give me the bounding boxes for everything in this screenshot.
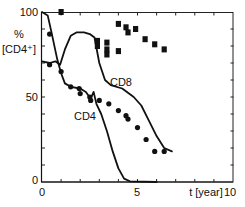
x-tick-label-5: 5 — [134, 186, 140, 198]
data-point-dot — [106, 101, 111, 106]
data-point-dot — [68, 84, 73, 89]
x-axis-label: t [year] — [189, 186, 223, 198]
y-tick-label-100: 100 — [20, 6, 38, 18]
data-point-square — [152, 41, 157, 47]
data-point-square — [125, 29, 130, 35]
data-point-square — [143, 36, 148, 42]
data-point-dot — [88, 98, 93, 103]
data-point-square — [59, 9, 64, 15]
data-point-square — [95, 43, 100, 49]
data-point-dot — [144, 137, 149, 142]
data-point-square — [116, 21, 121, 27]
data-point-dot — [77, 86, 82, 91]
data-point-dot — [97, 98, 102, 103]
cd4-model-curve — [42, 12, 157, 182]
y-tick-label-50: 50 — [26, 91, 38, 103]
x-tick-label-0: 0 — [39, 186, 45, 198]
data-point-dot — [78, 91, 83, 96]
chart: 100 50 0 0 5 10 t [year] % [CD4⁺] CD8 CD… — [0, 0, 245, 207]
data-point-dot — [47, 62, 52, 67]
data-point-dot — [125, 117, 130, 122]
data-point-square — [104, 52, 109, 58]
data-point-dot — [152, 149, 157, 154]
x-tick-label-10: 10 — [224, 186, 236, 198]
data-point-square — [133, 26, 138, 32]
y-tick-label-0: 0 — [32, 174, 38, 186]
y-axis-label-unit: % — [14, 28, 24, 40]
data-point-dot — [59, 69, 64, 74]
annotation-cd4: CD4 — [74, 110, 96, 122]
y-axis-label-name: [CD4⁺] — [2, 43, 36, 55]
data-point-square — [162, 46, 167, 52]
annotation-cd8: CD8 — [110, 76, 132, 88]
model-curves — [42, 12, 172, 182]
data-point-dot — [162, 149, 167, 154]
data-point-square — [116, 48, 121, 54]
data-point-square — [104, 40, 109, 46]
data-point-dot — [135, 125, 140, 130]
data-point-dot — [47, 31, 52, 36]
data-point-dot — [116, 108, 121, 113]
